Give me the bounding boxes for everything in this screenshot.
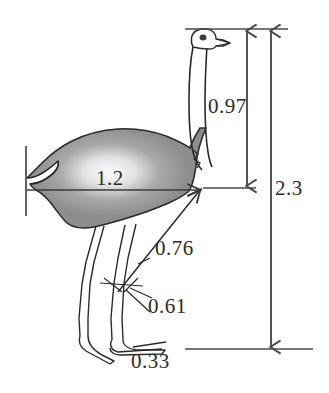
total-height-label: 2.3 bbox=[275, 178, 303, 199]
shank-dimension-line bbox=[126, 290, 150, 312]
ostrich-head bbox=[191, 29, 230, 49]
ostrich-dimension-figure: 1.2 0.97 2.3 0.76 0.61 0.33 bbox=[0, 0, 329, 393]
shank-length-label: 0.61 bbox=[148, 296, 187, 317]
body-length-label: 1.2 bbox=[96, 168, 124, 189]
ostrich-eye bbox=[200, 35, 207, 41]
neck-height-label: 0.97 bbox=[208, 96, 247, 117]
foot-height-label: 0.33 bbox=[131, 351, 170, 372]
thigh-length-label: 0.76 bbox=[155, 238, 194, 259]
